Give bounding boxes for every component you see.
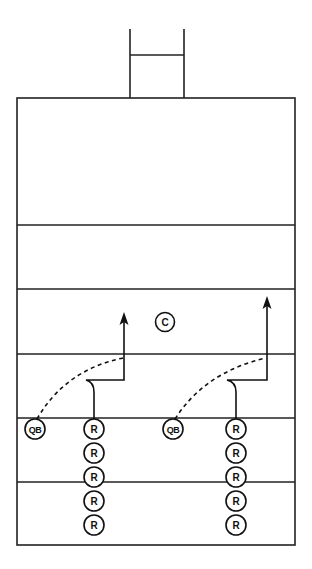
receiver-marker: R <box>226 515 246 535</box>
receiver-marker: R <box>226 443 246 463</box>
receiver-marker: R <box>226 467 246 487</box>
route-left <box>86 320 124 419</box>
svg-text:QB: QB <box>29 425 43 435</box>
qb-marker-left: QB <box>25 419 45 439</box>
svg-text:R: R <box>232 472 240 483</box>
receiver-marker: R <box>84 443 104 463</box>
pass-trajectory-left <box>37 358 123 419</box>
coach-marker: C <box>156 313 175 332</box>
yard-lines <box>17 225 295 482</box>
svg-text:R: R <box>90 448 98 459</box>
receiver-marker: R <box>226 419 246 439</box>
svg-text:R: R <box>90 496 98 507</box>
svg-text:C: C <box>161 317 168 328</box>
football-drill-diagram: C QB R R R R R QB R R R R <box>0 0 312 569</box>
svg-text:QB: QB <box>167 425 181 435</box>
goalpost <box>130 29 184 98</box>
receiver-marker: R <box>84 491 104 511</box>
svg-text:R: R <box>90 424 98 435</box>
svg-text:R: R <box>232 424 240 435</box>
svg-text:R: R <box>232 520 240 531</box>
svg-text:R: R <box>232 448 240 459</box>
svg-text:R: R <box>232 496 240 507</box>
receiver-marker: R <box>84 419 104 439</box>
receiver-marker: R <box>84 467 104 487</box>
qb-marker-right: QB <box>163 419 183 439</box>
receiver-marker: R <box>84 515 104 535</box>
svg-text:R: R <box>90 520 98 531</box>
route-right <box>227 304 267 419</box>
pass-trajectory-right <box>175 358 266 419</box>
svg-text:R: R <box>90 472 98 483</box>
receiver-marker: R <box>226 491 246 511</box>
